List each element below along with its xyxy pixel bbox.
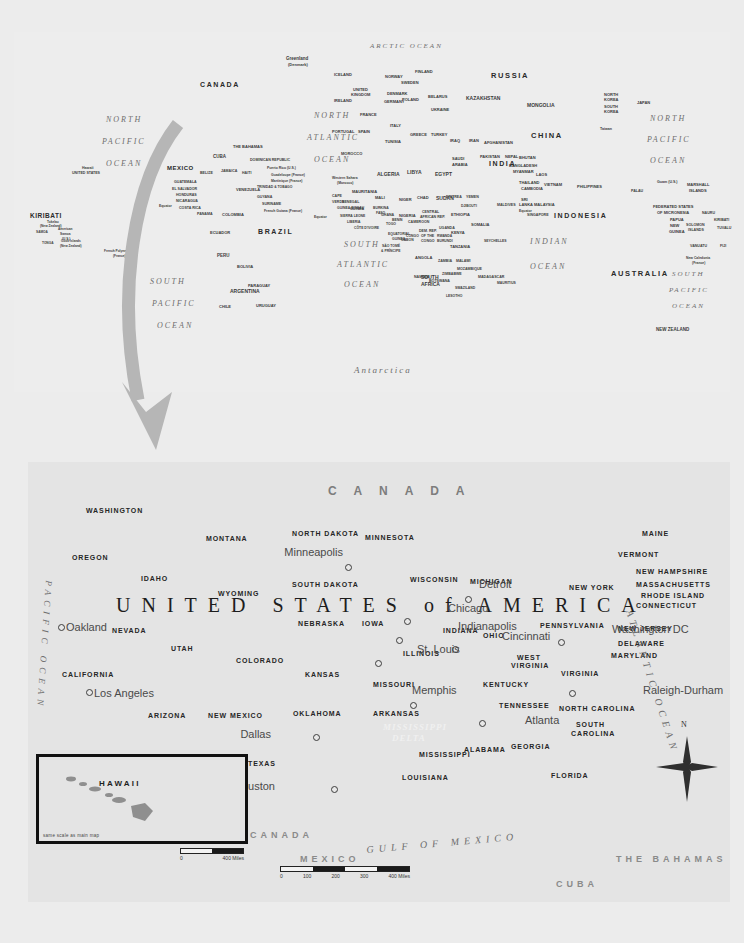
world-country-label: (New Zealand) (60, 244, 82, 248)
world-country-label: URUGUAY (256, 303, 276, 308)
world-country-label: ERITREA (446, 195, 462, 199)
world-country-label: GUINEA (392, 237, 405, 241)
scale-tick: 300 (360, 873, 368, 879)
world-country-label: DJIBOUTI (461, 204, 477, 208)
city-label: St. Louis (417, 643, 460, 655)
neighbor-country-label: CANADA (250, 830, 313, 840)
state-label: MARYLAND (611, 652, 658, 659)
world-country-label: TUVALU (717, 226, 731, 230)
scale-tick: 200 (332, 873, 340, 879)
world-country-label: TRINIDAD & TOBAGO (257, 185, 292, 189)
city-label: Los Angeles (94, 687, 154, 699)
world-country-label: LIBYA (407, 169, 422, 175)
world-country-label: KIRIBATI (30, 212, 62, 219)
world-ocean-label: INDIAN (530, 237, 569, 246)
neighbor-country-label: CUBA (556, 879, 598, 889)
alaska-scale-tick: 0 (180, 855, 183, 861)
world-country-label: TOGO (386, 222, 396, 226)
world-country-label: RUSSIA (491, 71, 529, 80)
hawaii-inset-caption: same scale as main map (43, 833, 99, 838)
world-country-label: EGYPT (435, 171, 452, 177)
world-country-label: ECUADOR (210, 230, 230, 235)
world-country-label: AFGHANISTAN (484, 140, 513, 145)
world-country-label: VIETNAM (544, 182, 562, 187)
world-country-label: PANAMA (197, 212, 213, 216)
world-country-label: ICELAND (334, 72, 352, 77)
world-country-label: JAMAICA (221, 169, 237, 173)
city-dot (313, 734, 320, 741)
world-country-label: MALDIVES (497, 203, 516, 207)
world-country-label: NICARAGUA (176, 199, 198, 203)
city-dot (58, 624, 65, 631)
world-country-label: CUBA (213, 154, 226, 159)
state-label: VIRGINIA (561, 670, 599, 677)
world-country-label: ARABIA (452, 162, 468, 167)
world-country-label: INDONESIA (554, 212, 607, 219)
world-country-label: BOTSWANA (429, 279, 450, 283)
world-country-label: MYANMAR (513, 169, 534, 174)
state-label: NEBRASKA (298, 620, 345, 627)
world-country-label: CAPE (332, 194, 342, 198)
world-country-label: CHINA (531, 131, 563, 140)
world-country-label: IRELAND (334, 98, 352, 103)
world-locator-map: ARCTIC OCEANNORTHPACIFICOCEANNORTHATLANT… (14, 32, 730, 392)
state-label: VIRGINIA (511, 662, 549, 669)
world-country-label: TURKEY (431, 132, 447, 137)
world-country-label: GUATEMALA (174, 180, 197, 184)
world-country-label: French Guiana (France) (264, 209, 302, 213)
state-label: WEST (517, 654, 541, 661)
world-ocean-label: OCEAN (530, 262, 566, 271)
state-label: WYOMING (218, 590, 259, 597)
world-ocean-label: OCEAN (344, 280, 380, 289)
world-country-label: FEDERATED STATES (653, 204, 693, 209)
world-ocean-label: OCEAN (650, 156, 686, 165)
state-label: RHODE ISLAND (641, 592, 705, 599)
world-country-label: MEXICO (167, 165, 194, 171)
world-country-label: ZAMBIA (438, 259, 452, 263)
world-ocean-label: PACIFIC (102, 137, 146, 146)
world-country-label: LESOTHO (446, 294, 462, 298)
world-ocean-background (14, 32, 730, 392)
world-country-label: Equator (314, 215, 327, 219)
world-country-label: MOROCCO (341, 151, 362, 156)
world-country-label: HONDURAS (176, 193, 197, 197)
world-country-label: CHILE (219, 304, 231, 309)
state-label: MINNESOTA (365, 534, 415, 541)
world-country-label: Guam (U.S.) (657, 180, 678, 184)
world-country-label: GREECE (410, 132, 427, 137)
world-country-label: SAMOA (36, 230, 48, 234)
world-country-label: Western Sahara (332, 176, 358, 180)
hawaii-inset-graphic (39, 757, 239, 835)
world-country-label: ARGENTINA (230, 288, 260, 294)
world-country-label: MALAYSIA (534, 202, 555, 207)
state-label: WISCONSIN (410, 576, 459, 583)
world-country-label: CHAD (417, 195, 429, 200)
world-country-label: UKRAINE (431, 107, 449, 112)
world-country-label: MAURITANIA (352, 189, 377, 194)
state-label: ARKANSAS (373, 710, 420, 717)
world-country-label: Samoa (60, 232, 70, 236)
world-country-label: FASO (376, 211, 385, 215)
world-country-label: SWAZILAND (455, 286, 475, 290)
scale-tick: 0 (280, 873, 283, 879)
world-country-label: SAUDI (452, 156, 464, 161)
world-country-label: LAOS (536, 172, 547, 177)
world-country-label: MOZAMBIQUE (457, 267, 482, 271)
city-dot (86, 689, 93, 696)
world-country-label: MAURITIUS (497, 281, 516, 285)
city-label: Minneapolis (284, 546, 343, 558)
world-country-label: IRAQ (450, 138, 460, 143)
world-country-label: AFRICAN REP. (420, 215, 445, 219)
world-country-label: NEW ZEALAND (656, 327, 689, 332)
world-country-label: JAPAN (637, 100, 650, 105)
world-ocean-label: NORTH (650, 114, 686, 123)
scale-tick: 100 (303, 873, 311, 879)
world-country-label: BELARUS (428, 94, 447, 99)
world-ocean-label: OCEAN (314, 155, 350, 164)
city-label: Detroit (479, 578, 511, 590)
state-label: CALIFORNIA (62, 671, 114, 678)
world-country-label: Equator (159, 204, 172, 208)
world-country-label: (France) (113, 254, 126, 258)
compass-rose: N (654, 720, 720, 806)
city-dot (569, 690, 576, 697)
